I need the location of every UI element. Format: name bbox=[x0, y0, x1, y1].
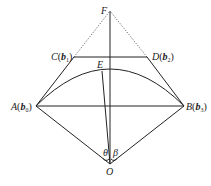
label-c: C(b1) bbox=[51, 51, 72, 63]
dotted-line-cf bbox=[74, 11, 110, 57]
line-oa bbox=[36, 106, 110, 164]
label-theta: θ bbox=[103, 147, 108, 158]
geometry-diagram: F C(b1) D(b2) E A(b0) B(b3) θ β O bbox=[0, 0, 211, 186]
line-ob bbox=[110, 106, 184, 164]
label-beta: β bbox=[112, 147, 118, 158]
line-ac bbox=[36, 57, 74, 106]
svg-text:D(b2): D(b2) bbox=[151, 51, 174, 63]
label-b: B(b3) bbox=[186, 101, 207, 113]
label-f: F bbox=[100, 5, 108, 16]
dotted-line-df bbox=[110, 11, 147, 57]
angle-arc-beta bbox=[111, 159, 117, 161]
svg-text:B(b3): B(b3) bbox=[186, 101, 207, 113]
label-e: E bbox=[96, 59, 103, 70]
svg-text:C(b1): C(b1) bbox=[51, 51, 72, 63]
angle-arc-theta bbox=[103, 159, 109, 161]
label-d: D(b2) bbox=[151, 51, 174, 63]
label-a: A(b0) bbox=[10, 101, 32, 113]
label-o: O bbox=[106, 166, 113, 177]
svg-text:A(b0): A(b0) bbox=[10, 101, 32, 113]
